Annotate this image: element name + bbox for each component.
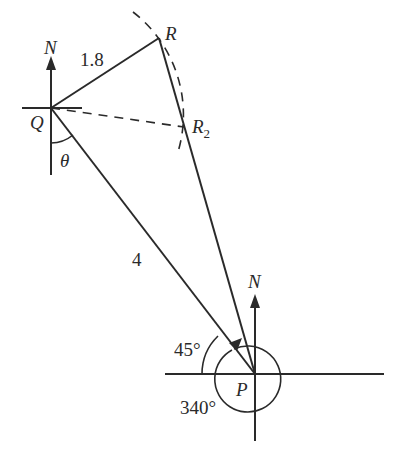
r-label: R <box>165 24 177 43</box>
q-north-label: N <box>44 38 57 57</box>
p-north-label: N <box>248 272 261 291</box>
angle-45-arc <box>202 336 218 374</box>
diagram-canvas <box>0 0 400 457</box>
qr-length-label: 1.8 <box>80 50 104 69</box>
segment-qr2-dashed <box>51 108 184 127</box>
p-label: P <box>236 380 248 399</box>
angle-340-label: 340° <box>180 398 216 417</box>
angle-45-label: 45° <box>174 340 201 359</box>
p-north-arrow-icon <box>250 294 260 308</box>
qp-length-label: 4 <box>132 250 142 269</box>
r2-label: R2 <box>192 117 210 140</box>
arc-direction-arrow-icon <box>229 338 242 351</box>
q-label: Q <box>30 113 44 132</box>
segment-rp <box>159 38 255 374</box>
theta-arc <box>51 135 73 143</box>
bearing-diagram: N 1.8 R Q R2 θ 4 N 45° P 340° <box>0 0 400 457</box>
q-north-arrow-icon <box>46 56 56 70</box>
segment-qr <box>51 38 159 108</box>
segment-qp <box>51 108 255 374</box>
theta-label: θ <box>60 151 69 170</box>
